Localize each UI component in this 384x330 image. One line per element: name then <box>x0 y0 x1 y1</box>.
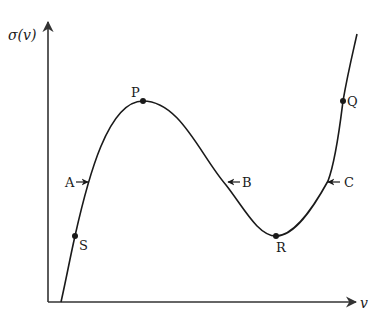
point-R-label: R <box>276 240 287 255</box>
annotation-B-label: B <box>242 175 252 190</box>
annotation-A-label: A <box>64 175 75 190</box>
annotation-B: B <box>228 175 252 190</box>
point-Q-label: Q <box>347 94 358 109</box>
sigma-v-diagram: σ(v) v S P R Q A B <box>0 0 384 330</box>
sigma-curve <box>61 34 357 302</box>
y-axis-label: σ(v) <box>8 27 36 43</box>
annotation-C-label: C <box>344 175 354 190</box>
x-axis-label: v <box>360 295 368 311</box>
point-S: S <box>72 233 88 253</box>
point-P-label: P <box>131 85 140 100</box>
point-S-label: S <box>79 238 88 253</box>
annotation-C: C <box>328 175 354 190</box>
annotation-A: A <box>64 175 88 190</box>
